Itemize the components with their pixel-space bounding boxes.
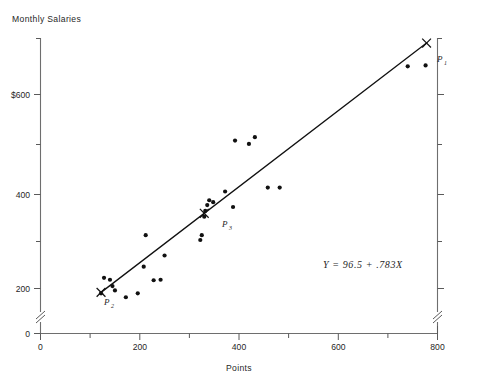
marker-p2	[97, 288, 106, 297]
data-point	[113, 288, 117, 292]
point-label-p2: P 2	[103, 297, 114, 309]
y-tick-label-600: $600	[11, 90, 30, 100]
x-axis: 0 200 400 600 800 Points	[38, 326, 445, 373]
data-point	[233, 138, 237, 142]
data-point	[152, 278, 156, 282]
y-axis-right-break-icon	[433, 311, 442, 323]
y-tick-label-400: 400	[16, 190, 31, 200]
data-point	[142, 265, 146, 269]
p3-subscript: 3	[228, 225, 232, 231]
y-axis-left: 0 200 400 $600	[11, 38, 45, 339]
y-tick-label-0: 0	[25, 329, 30, 339]
data-point	[266, 186, 270, 190]
data-point	[205, 203, 209, 207]
x-tick-label-200: 200	[133, 342, 148, 352]
data-point	[200, 233, 204, 237]
data-point	[124, 295, 128, 299]
data-point	[231, 205, 235, 209]
point-label-p3: P 3	[221, 219, 232, 231]
data-point	[211, 200, 215, 204]
data-point	[406, 64, 410, 68]
chart-title: Monthly Salaries	[12, 14, 81, 24]
data-point	[423, 63, 427, 67]
y-axis-break-icon	[36, 311, 45, 323]
data-point	[253, 135, 257, 139]
data-point	[110, 284, 114, 288]
regression-equation-annotation: Y = 96.5 + .783X	[323, 259, 403, 270]
p3-letter: P	[221, 219, 228, 229]
data-point	[102, 276, 106, 280]
data-point	[278, 186, 282, 190]
x-tick-label-600: 600	[331, 342, 346, 352]
chart-svg: Monthly Salaries 0 200 400	[0, 0, 479, 387]
data-point	[207, 198, 211, 202]
y-axis-right	[433, 38, 444, 334]
marker-p1	[422, 39, 431, 48]
data-point	[108, 278, 112, 282]
scatterplot-figure: Monthly Salaries 0 200 400	[0, 0, 479, 387]
x-tick-label-0: 0	[38, 342, 43, 352]
data-point	[136, 291, 140, 295]
x-tick-label-800: 800	[430, 342, 445, 352]
data-point	[158, 278, 162, 282]
p2-subscript: 2	[111, 303, 114, 309]
x-axis-title: Points	[226, 363, 252, 373]
x-tick-label-400: 400	[232, 342, 247, 352]
p1-letter: P	[436, 54, 443, 64]
p1-subscript: 1	[444, 60, 447, 66]
y-tick-label-200: 200	[16, 284, 31, 294]
data-point	[247, 142, 251, 146]
data-point	[162, 253, 166, 257]
data-point	[144, 233, 148, 237]
data-point	[223, 189, 227, 193]
regression-line	[101, 43, 427, 292]
p2-letter: P	[103, 297, 110, 307]
data-point	[198, 238, 202, 242]
